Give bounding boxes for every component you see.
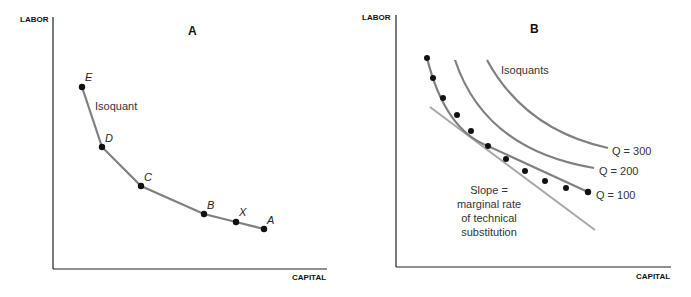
panel-title: A <box>188 24 197 38</box>
point-b <box>201 211 207 217</box>
point <box>522 168 528 174</box>
y-axis-label: LABOR <box>20 15 49 24</box>
q200-label: Q = 200 <box>599 165 638 177</box>
panel-a: LABOR CAPITAL A Isoquant E D C B X A <box>20 15 327 282</box>
point <box>563 185 569 191</box>
q100-points <box>424 55 591 195</box>
point <box>485 143 491 149</box>
point-d <box>99 144 105 150</box>
figure: LABOR CAPITAL A Isoquant E D C B X A LAB… <box>0 0 691 297</box>
q300-label: Q = 300 <box>612 145 651 157</box>
point <box>424 55 430 61</box>
panel-b: LABOR CAPITAL B Isoquants Q = 300 Q = 20… <box>362 13 671 281</box>
point-e-label: E <box>85 71 93 83</box>
point-x-label: X <box>238 206 247 218</box>
point-a-label: A <box>266 214 274 226</box>
slope-line-1: Slope = <box>470 184 508 196</box>
isoquants-label: Isoquants <box>501 64 549 76</box>
point-b-label: B <box>207 199 214 211</box>
point <box>542 178 548 184</box>
point-x <box>233 219 239 225</box>
isoquant-label: Isoquant <box>95 100 137 112</box>
slope-line-4: substitution <box>461 226 517 238</box>
isoquant-q100 <box>427 58 588 192</box>
point <box>430 75 436 81</box>
point-c-label: C <box>144 171 152 183</box>
y-axis-label: LABOR <box>362 13 391 22</box>
panel-title: B <box>530 22 539 36</box>
point-d-label: D <box>105 132 113 144</box>
point <box>503 156 509 162</box>
q100-label: Q = 100 <box>596 189 635 201</box>
point <box>585 189 591 195</box>
point-c <box>138 183 144 189</box>
x-axis-label: CAPITAL <box>292 273 326 282</box>
isoquant-q200 <box>455 60 594 168</box>
point <box>440 95 446 101</box>
point-e <box>79 84 85 90</box>
x-axis-label: CAPITAL <box>636 272 670 281</box>
point-a <box>261 226 267 232</box>
slope-line-3: of technical <box>461 212 517 224</box>
point <box>468 128 474 134</box>
slope-line-2: marginal rate <box>457 198 521 210</box>
slope-annotation: Slope = marginal rate of technical subst… <box>457 184 521 238</box>
point <box>454 112 460 118</box>
